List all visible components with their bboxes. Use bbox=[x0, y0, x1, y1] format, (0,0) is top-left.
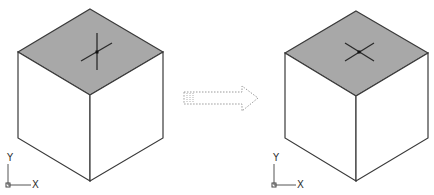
ucs-after-y-label: Y bbox=[273, 153, 279, 163]
ucs-before-x-label: X bbox=[32, 180, 39, 190]
transition-arrow-icon bbox=[184, 86, 258, 111]
cube-before bbox=[18, 9, 163, 181]
ucs-before-y-label: Y bbox=[7, 153, 13, 163]
cube-after bbox=[285, 11, 428, 181]
ucs-icon-after bbox=[272, 164, 296, 187]
diagram-canvas bbox=[0, 0, 434, 195]
ucs-icon-before bbox=[6, 164, 31, 187]
ucs-after-x-label: X bbox=[297, 180, 304, 190]
